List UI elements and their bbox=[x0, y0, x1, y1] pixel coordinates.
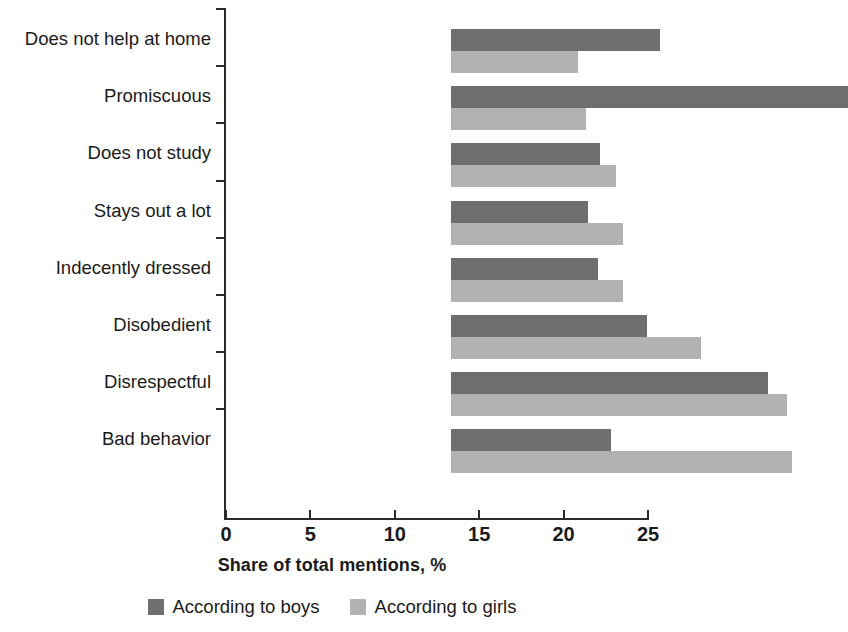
x-axis-tick bbox=[309, 510, 311, 520]
bar-girls bbox=[451, 108, 586, 130]
category-label: Disrespectful bbox=[104, 371, 211, 393]
x-axis-tick-label: 10 bbox=[384, 523, 406, 546]
x-axis-line bbox=[224, 518, 648, 520]
x-axis-tick bbox=[647, 510, 649, 520]
bar-girls bbox=[451, 280, 623, 302]
legend-label: According to girls bbox=[375, 596, 517, 618]
bar-girls bbox=[451, 51, 578, 73]
bar-girls bbox=[451, 337, 701, 359]
y-axis-tick bbox=[216, 237, 225, 239]
x-axis-title: Share of total mentions, % bbox=[0, 555, 664, 576]
category-label: Disobedient bbox=[113, 314, 211, 336]
y-axis-tick bbox=[216, 294, 225, 296]
x-axis-tick-label: 0 bbox=[220, 523, 231, 546]
legend-item: According to boys bbox=[148, 596, 320, 618]
bar-boys bbox=[451, 258, 598, 280]
x-axis-tick bbox=[563, 510, 565, 520]
x-axis-tick bbox=[478, 510, 480, 520]
category-label: Indecently dressed bbox=[56, 257, 211, 279]
x-axis-tick-label: 25 bbox=[637, 523, 659, 546]
bar-boys bbox=[451, 315, 647, 337]
chart-legend: According to boysAccording to girls bbox=[0, 596, 664, 618]
x-axis-tick-label: 20 bbox=[552, 523, 574, 546]
y-axis-tick bbox=[216, 351, 225, 353]
bar-boys bbox=[451, 372, 768, 394]
bar-girls bbox=[451, 165, 616, 187]
bar-girls bbox=[451, 223, 623, 245]
bar-girls bbox=[451, 394, 787, 416]
legend-item: According to girls bbox=[350, 596, 517, 618]
y-axis-tick bbox=[216, 122, 225, 124]
category-label: Promiscuous bbox=[104, 85, 211, 107]
y-axis-tick bbox=[216, 180, 225, 182]
y-axis-tick bbox=[216, 65, 225, 67]
bar-boys bbox=[451, 29, 660, 51]
legend-swatch-icon bbox=[148, 599, 164, 615]
category-label: Stays out a lot bbox=[94, 200, 211, 222]
category-label: Bad behavior bbox=[102, 428, 211, 450]
x-axis-tick bbox=[394, 510, 396, 520]
plot-area bbox=[225, 12, 647, 518]
bar-boys bbox=[451, 429, 611, 451]
legend-swatch-icon bbox=[350, 599, 366, 615]
bar-boys bbox=[451, 143, 600, 165]
legend-label: According to boys bbox=[173, 596, 320, 618]
bar-boys bbox=[451, 201, 588, 223]
y-axis-tick bbox=[216, 408, 225, 410]
x-axis-tick-label: 5 bbox=[305, 523, 316, 546]
bar-girls bbox=[451, 451, 792, 473]
category-label: Does not help at home bbox=[25, 28, 211, 50]
x-axis-tick-label: 15 bbox=[468, 523, 490, 546]
bar-boys bbox=[451, 86, 848, 108]
x-axis-tick bbox=[225, 510, 227, 520]
y-axis-tick bbox=[216, 8, 225, 10]
category-label: Does not study bbox=[88, 142, 211, 164]
